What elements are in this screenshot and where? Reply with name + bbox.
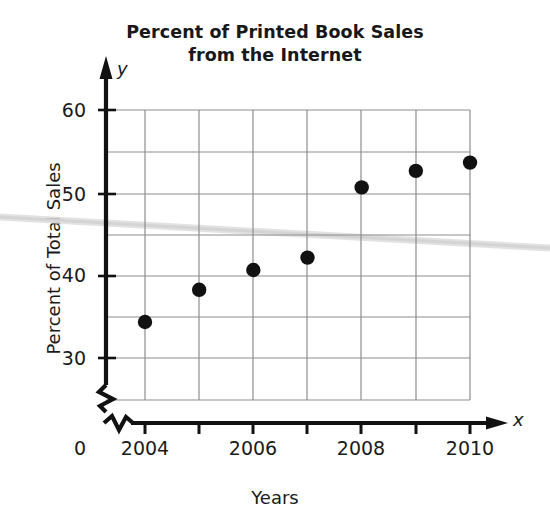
data-point-2005 (192, 283, 206, 297)
y-axis-break (99, 385, 113, 412)
x-axis-break (104, 416, 133, 430)
data-point-2006 (246, 263, 260, 277)
data-point-2007 (300, 250, 314, 264)
chart-plot-area (0, 0, 550, 530)
chart-figure: Percent of Printed Book Sales from the I… (0, 0, 550, 530)
x-axis-ticks (145, 424, 470, 434)
x-axis-arrowhead (486, 417, 508, 430)
data-point-2009 (409, 164, 423, 178)
y-axis-arrowhead (100, 56, 113, 79)
data-point-2008 (354, 180, 368, 194)
data-point-2004 (138, 315, 152, 329)
data-point-2010 (463, 155, 477, 169)
scan-crease-artifact (0, 217, 550, 248)
